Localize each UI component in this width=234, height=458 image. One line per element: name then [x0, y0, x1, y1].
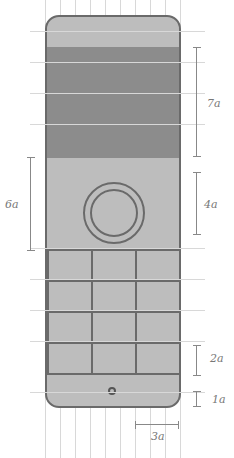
dim-control-label: 6a	[5, 198, 19, 211]
dim-screen-label: 7a	[207, 97, 221, 110]
device-body	[45, 15, 181, 408]
key	[135, 249, 181, 282]
diagram-canvas: 7a 6a 4a 2a 1a 3a	[0, 0, 234, 458]
dim-margin-bracket	[196, 391, 203, 407]
key	[91, 249, 137, 282]
key	[91, 342, 137, 375]
screen-area	[47, 47, 179, 158]
key	[91, 280, 137, 313]
key	[47, 342, 93, 375]
dim-margin-label: 1a	[212, 393, 226, 406]
dim-key-bracket	[196, 345, 203, 376]
dim-ring-label: 4a	[204, 198, 218, 211]
home-button-icon	[108, 387, 116, 395]
keypad	[47, 249, 179, 373]
dim-screen-bracket	[196, 47, 203, 157]
dim-ring-bracket	[196, 172, 203, 235]
key	[47, 280, 93, 313]
dim-control-bracket	[30, 157, 37, 251]
dim-keywidth-label: 3a	[151, 430, 165, 443]
key	[91, 311, 137, 344]
key	[135, 342, 181, 375]
key	[135, 311, 181, 344]
inner-ring	[90, 189, 138, 237]
dim-key-label: 2a	[210, 352, 224, 365]
key	[47, 311, 93, 344]
key	[135, 280, 181, 313]
key	[47, 249, 93, 282]
